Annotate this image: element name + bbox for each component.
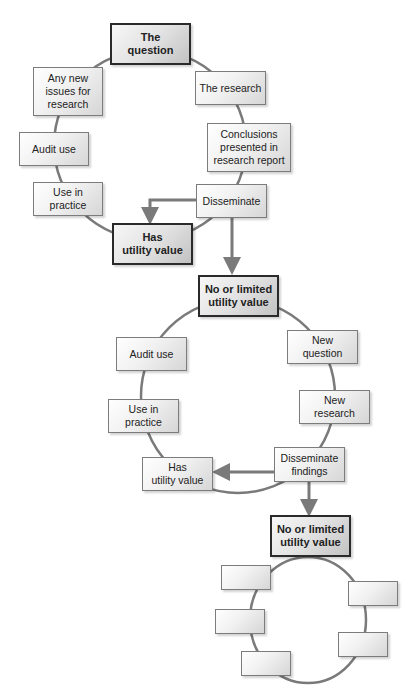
c2-use-in-practice-box: Use in practice [108, 399, 179, 433]
c1-conclusions-box: Conclusions presented in research report [207, 123, 291, 172]
c3-no-limited-utility-box: No or limited utility value [270, 515, 351, 557]
c1-new-issues-box: Any new issues for research [33, 67, 103, 116]
c1-audit-use-box: Audit use [19, 132, 89, 166]
c3-empty-box-bottom-right [338, 632, 388, 657]
c2-new-question-box: New question [287, 330, 358, 364]
c1-use-in-practice-box: Use in practice [33, 182, 103, 216]
c2-has-utility-value-box: Has utility value [142, 457, 213, 491]
c3-empty-box-mid-left [215, 609, 265, 634]
c1-the-question-box: The question [110, 23, 191, 65]
c3-empty-box-top-left [221, 565, 271, 590]
c3-empty-box-top-right [348, 581, 398, 606]
arrow-disseminate-to-has-utility [150, 200, 196, 216]
research-cycle-diagram: The question The research Conclusions pr… [0, 0, 418, 692]
c3-empty-box-bottom-left [241, 651, 291, 676]
c2-new-research-box: New research [299, 390, 370, 424]
c2-no-limited-utility-box: No or limited utility value [198, 275, 279, 317]
c1-has-utility-value-box: Has utility value [112, 223, 193, 265]
c1-the-research-box: The research [195, 71, 266, 105]
c1-disseminate-box: Disseminate [196, 184, 267, 218]
c2-audit-use-box: Audit use [116, 337, 187, 371]
c2-disseminate-findings-box: Disseminate findings [274, 447, 345, 482]
